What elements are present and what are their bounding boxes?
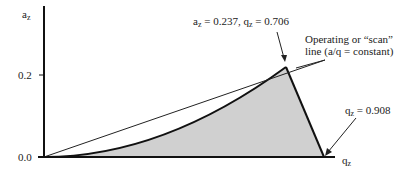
x-axis-label: qz — [342, 154, 351, 166]
peak-arrow — [277, 32, 284, 58]
scan-line-annotation: Operating or “scan”line (a/q = constant) — [305, 33, 393, 57]
peak-annotation: az = 0.237, qz = 0.706 — [193, 15, 289, 27]
y-axis-label: az — [22, 8, 30, 20]
scan-pointer — [296, 60, 325, 68]
end-annotation: qz = 0.908 — [345, 104, 391, 116]
peak-arrow-head — [281, 55, 287, 62]
y-tick-label-02: 0.2 — [18, 69, 32, 81]
shaded-region — [44, 67, 324, 157]
y-tick-label-0: 0.0 — [18, 151, 32, 163]
end-arrow — [328, 118, 356, 152]
